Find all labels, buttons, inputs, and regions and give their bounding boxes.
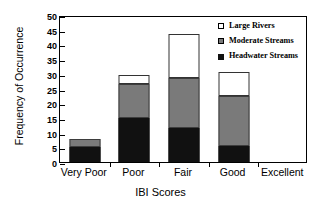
bar-segment-headwater-streams bbox=[169, 128, 200, 162]
legend-item-label: Moderate Streams bbox=[229, 37, 294, 45]
y-axis-tickmark bbox=[60, 105, 65, 106]
bar-segment-moderate-streams bbox=[119, 84, 150, 118]
y-axis-tick-label: 45 bbox=[37, 27, 57, 36]
bar-segment-moderate-streams bbox=[69, 139, 100, 148]
legend-item-headwater-streams: Headwater Streams bbox=[218, 52, 298, 60]
y-axis-tickmark bbox=[60, 120, 65, 121]
bar-poor bbox=[119, 75, 150, 162]
y-axis-tickmark bbox=[60, 46, 65, 47]
y-axis-tickmark bbox=[60, 135, 65, 136]
y-axis-tick-label: 35 bbox=[37, 57, 57, 66]
legend-item-moderate-streams: Moderate Streams bbox=[218, 37, 298, 45]
bar-good bbox=[218, 72, 249, 162]
y-axis-tick-label: 15 bbox=[37, 115, 57, 124]
bar-segment-moderate-streams bbox=[218, 96, 249, 146]
x-axis-title: IBI Scores bbox=[0, 186, 321, 198]
chart-figure: Frequency of Occurrence 0510152025303540… bbox=[0, 0, 321, 210]
legend-swatch-gray-icon bbox=[218, 38, 224, 44]
bar-segment-large-rivers bbox=[119, 75, 150, 84]
y-axis-tickmark bbox=[60, 149, 65, 150]
bar-segment-moderate-streams bbox=[169, 78, 200, 128]
y-axis-tick-label: 30 bbox=[37, 71, 57, 80]
y-axis-tickmark bbox=[60, 32, 65, 33]
bar-segment-large-rivers bbox=[218, 72, 249, 96]
legend-swatch-white-icon bbox=[218, 23, 224, 29]
legend-item-label: Headwater Streams bbox=[229, 52, 298, 60]
y-axis-title: Frequency of Occurrence bbox=[13, 11, 25, 161]
y-axis-tick-label: 25 bbox=[37, 86, 57, 95]
legend-item-label: Large Rivers bbox=[229, 22, 275, 30]
y-axis-tickmark bbox=[60, 61, 65, 62]
y-axis-tick-label: 10 bbox=[37, 130, 57, 139]
plot-area: 05101520253035404550 Large RiversModerat… bbox=[59, 16, 307, 163]
y-axis-tickmark bbox=[60, 91, 65, 92]
bar-segment-headwater-streams bbox=[218, 146, 249, 162]
x-axis-tick-label-excellent: Excellent bbox=[247, 166, 317, 178]
legend-swatch-black-icon bbox=[218, 54, 224, 60]
y-axis-tick-label: 5 bbox=[37, 145, 57, 154]
y-axis-tick-label: 50 bbox=[37, 13, 57, 22]
bar-segment-large-rivers bbox=[169, 34, 200, 78]
legend-item-large-rivers: Large Rivers bbox=[218, 22, 298, 30]
y-axis-tickmark bbox=[60, 164, 65, 165]
bar-segment-headwater-streams bbox=[69, 147, 100, 162]
y-axis-tick-label: 20 bbox=[37, 101, 57, 110]
chart-legend: Large RiversModerate StreamsHeadwater St… bbox=[218, 22, 298, 68]
bar-very-poor bbox=[69, 139, 100, 163]
y-axis-tick-label: 40 bbox=[37, 42, 57, 51]
y-axis-tickmark bbox=[60, 17, 65, 18]
bar-fair bbox=[169, 34, 200, 162]
y-axis-tickmark bbox=[60, 76, 65, 77]
bar-segment-headwater-streams bbox=[119, 118, 150, 162]
